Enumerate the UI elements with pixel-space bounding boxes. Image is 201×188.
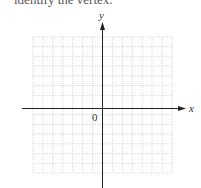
y-axis-label: y [98, 9, 104, 21]
x-axis [22, 106, 186, 111]
coordinate-plane: x y 0 [0, 0, 201, 188]
origin-label: 0 [92, 111, 98, 123]
y-axis [100, 22, 105, 188]
x-axis-label: x [188, 102, 194, 114]
